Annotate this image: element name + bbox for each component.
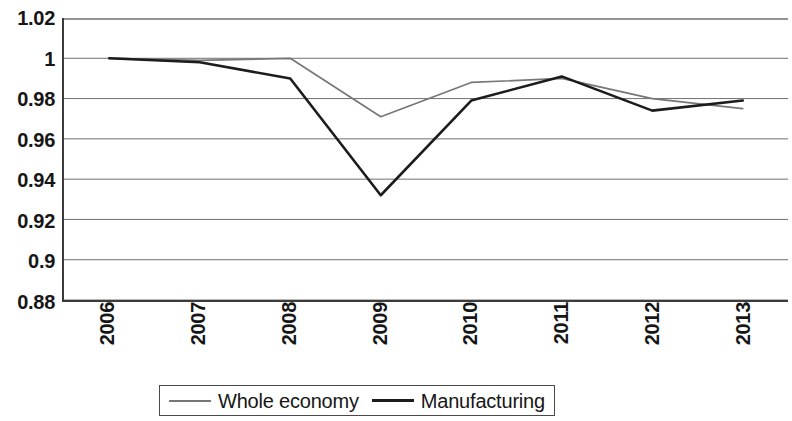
chart-legend: Whole economyManufacturing <box>159 385 555 416</box>
legend-label: Manufacturing <box>421 391 545 411</box>
y-axis-tick-label: 1 <box>0 49 55 69</box>
line-swatch-light <box>169 400 211 402</box>
y-axis-tick-label: 1.02 <box>0 8 55 28</box>
x-axis: 20062007200820092010201120122013 <box>62 302 788 382</box>
y-axis-tick-label: 0.98 <box>0 89 55 109</box>
x-axis-tick-label: 2008 <box>278 302 301 376</box>
legend-item-manufacturing[interactable]: Manufacturing <box>372 391 545 411</box>
series-lines <box>109 58 743 195</box>
y-axis-tick-label: 0.92 <box>0 211 55 231</box>
x-axis-tick-label: 2013 <box>732 302 755 376</box>
y-axis: 1.0210.980.960.940.920.90.88 <box>0 0 55 421</box>
line-chart: 1.0210.980.960.940.920.90.88 20062007200… <box>0 0 792 421</box>
x-axis-tick-label: 2012 <box>641 302 664 376</box>
plot-svg <box>64 18 788 300</box>
legend-item-whole-economy[interactable]: Whole economy <box>169 391 359 411</box>
x-axis-tick-label: 2007 <box>187 302 210 376</box>
x-axis-tick-label: 2011 <box>550 302 573 376</box>
x-axis-tick-label: 2006 <box>96 302 119 376</box>
legend-label: Whole economy <box>218 391 359 411</box>
x-axis-tick-label: 2010 <box>459 302 482 376</box>
y-axis-tick-label: 0.96 <box>0 130 55 150</box>
series-line-manufacturing <box>109 58 743 195</box>
x-axis-tick-label: 2009 <box>369 302 392 376</box>
y-axis-tick-label: 0.9 <box>0 251 55 271</box>
y-axis-tick-label: 0.88 <box>0 292 55 312</box>
plot-area <box>62 18 788 302</box>
line-swatch-dark <box>372 399 414 402</box>
y-axis-tick-label: 0.94 <box>0 170 55 190</box>
